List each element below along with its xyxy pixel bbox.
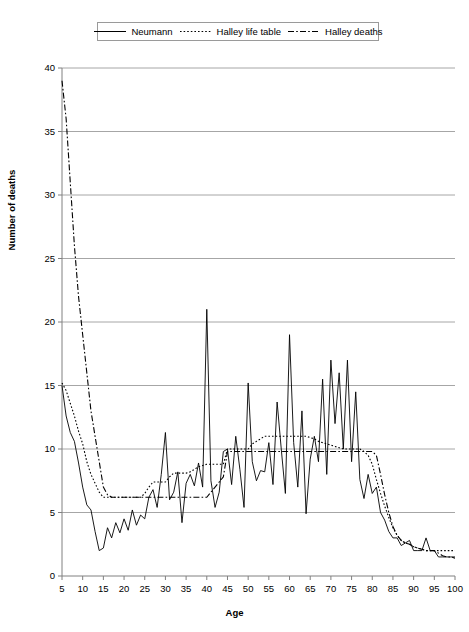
legend-swatch-dotted-icon xyxy=(179,27,213,36)
x-tick-label: 15 xyxy=(98,583,109,594)
x-tick-label: 10 xyxy=(77,583,88,594)
x-tick-label: 35 xyxy=(181,583,192,594)
x-tick-label: 70 xyxy=(326,583,337,594)
x-tick-label: 20 xyxy=(119,583,130,594)
y-tick-label: 35 xyxy=(44,126,55,137)
plot-area: 0510152025303540510152025303540455055606… xyxy=(0,0,469,632)
x-tick-label: 30 xyxy=(160,583,171,594)
y-tick-label: 30 xyxy=(44,189,55,200)
x-tick-label: 85 xyxy=(388,583,399,594)
y-tick-label: 25 xyxy=(44,253,55,264)
x-tick-label: 40 xyxy=(202,583,213,594)
y-tick-label: 20 xyxy=(44,316,55,327)
y-tick-label: 5 xyxy=(50,507,55,518)
x-tick-label: 80 xyxy=(367,583,378,594)
x-tick-label: 55 xyxy=(264,583,275,594)
legend-label: Halley deaths xyxy=(325,27,383,37)
legend-item-halley-deaths[interactable]: Halley deaths xyxy=(284,27,386,37)
x-tick-label: 25 xyxy=(139,583,150,594)
y-tick-label: 40 xyxy=(44,62,55,73)
legend-swatch-dashdot-icon xyxy=(287,27,321,36)
y-tick-label: 15 xyxy=(44,380,55,391)
y-tick-label: 0 xyxy=(50,570,55,581)
legend-item-neumann[interactable]: Neumann xyxy=(90,27,175,37)
x-tick-label: 75 xyxy=(346,583,357,594)
x-tick-label: 45 xyxy=(222,583,233,594)
series-halley-deaths xyxy=(62,81,455,559)
legend-swatch-solid-icon xyxy=(93,27,127,36)
x-tick-label: 95 xyxy=(429,583,440,594)
y-axis-ticks: 0510152025303540 xyxy=(44,62,62,581)
x-axis-title: Age xyxy=(0,607,469,618)
x-tick-label: 65 xyxy=(305,583,316,594)
series-halley-life-table xyxy=(62,383,455,551)
x-tick-label: 100 xyxy=(447,583,463,594)
y-axis-title: Number of deaths xyxy=(6,150,17,270)
legend-item-halley-life-table[interactable]: Halley life table xyxy=(176,27,284,37)
chart-figure: NeumannHalley life tableHalley deaths Nu… xyxy=(0,0,469,632)
x-tick-label: 50 xyxy=(243,583,254,594)
legend-label: Neumann xyxy=(131,27,172,37)
gridlines xyxy=(62,68,455,513)
x-axis-ticks: 5101520253035404550556065707580859095100 xyxy=(59,576,463,594)
y-tick-label: 10 xyxy=(44,443,55,454)
x-tick-label: 60 xyxy=(284,583,295,594)
legend-label: Halley life table xyxy=(217,27,281,37)
series-neumann xyxy=(62,309,455,557)
x-tick-label: 5 xyxy=(59,583,64,594)
x-tick-label: 90 xyxy=(408,583,419,594)
chart-legend: NeumannHalley life tableHalley deaths xyxy=(97,22,379,41)
